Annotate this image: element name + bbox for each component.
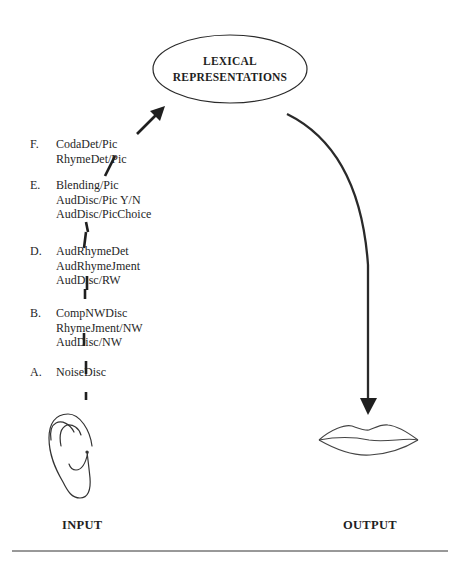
stage-item: AudDisc/RW bbox=[56, 273, 140, 288]
stage-item: AudRhymeDet bbox=[56, 244, 140, 259]
stage-letter: E. bbox=[30, 178, 40, 193]
stage-item: AudRhymeJment bbox=[56, 259, 140, 274]
stage-item: NoiseDisc bbox=[56, 365, 106, 380]
stage-letter: D. bbox=[30, 244, 42, 259]
input-label: INPUT bbox=[62, 518, 102, 533]
stage-letter: A. bbox=[30, 365, 42, 380]
stage-item: AudDisc/Pic Y/N bbox=[56, 193, 151, 208]
output-label: OUTPUT bbox=[343, 518, 397, 533]
stage-item: CompNWDisc bbox=[56, 306, 143, 321]
stage-item: AudDisc/NW bbox=[56, 335, 143, 350]
stage-letter: B. bbox=[30, 306, 41, 321]
ear-icon bbox=[49, 414, 92, 498]
lexical-representations-node: LEXICAL REPRESENTATIONS bbox=[153, 53, 307, 85]
stage-item: RhymeDet/Pic bbox=[56, 152, 127, 167]
node-line-2: REPRESENTATIONS bbox=[153, 69, 307, 85]
stage-letter: F. bbox=[30, 137, 39, 152]
arrow-to-lexical bbox=[137, 106, 165, 134]
arrow-to-output bbox=[287, 114, 377, 415]
stage-item: RhymeJment/NW bbox=[56, 321, 143, 336]
stage-item: AudDisc/PicChoice bbox=[56, 207, 151, 222]
stage-item: Blending/Pic bbox=[56, 178, 151, 193]
node-line-1: LEXICAL bbox=[153, 53, 307, 69]
stage-item: CodaDet/Pic bbox=[56, 137, 127, 152]
lips-icon bbox=[319, 425, 418, 455]
